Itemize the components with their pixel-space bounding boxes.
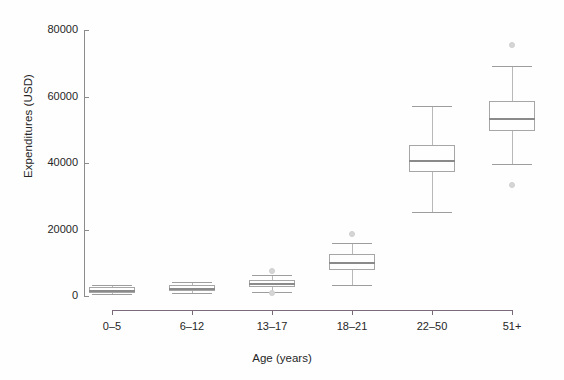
outlier-point	[269, 268, 275, 274]
median-line	[169, 288, 215, 290]
whisker-cap-lower	[332, 285, 372, 286]
box-plot-figure: Expenditures (USD) 020000400006000080000…	[0, 0, 564, 380]
x-axis-tick-label: 13–17	[237, 320, 307, 332]
whisker-lower	[432, 172, 433, 211]
y-axis-tick-label: 20000	[0, 223, 78, 235]
whisker-lower	[512, 131, 513, 164]
whisker-cap-upper	[492, 66, 532, 67]
x-axis-title: Age (years)	[0, 352, 564, 364]
x-axis-tick-label: 18–21	[317, 320, 387, 332]
box-iqr-rect	[489, 101, 535, 131]
y-axis-title: Expenditures (USD)	[22, 36, 34, 216]
whisker-cap-lower	[172, 293, 212, 294]
y-axis-tick-label: 60000	[0, 90, 78, 102]
outlier-point	[269, 290, 275, 296]
whisker-cap-lower	[92, 294, 132, 295]
x-axis-tick-label: 51+	[477, 320, 547, 332]
y-axis-tick	[84, 30, 89, 31]
outlier-point	[349, 231, 355, 237]
x-axis-tick-label: 6–12	[157, 320, 227, 332]
whisker-cap-upper	[332, 243, 372, 244]
y-axis-tick	[84, 296, 89, 297]
x-axis-tick	[352, 310, 353, 315]
x-axis-line	[112, 310, 512, 311]
outlier-point	[509, 42, 515, 48]
whisker-cap-upper	[412, 106, 452, 107]
y-axis-tick	[84, 163, 89, 164]
y-axis-tick-label: 40000	[0, 156, 78, 168]
whisker-upper	[512, 66, 513, 101]
y-axis-tick-label: 0	[0, 289, 78, 301]
x-axis-tick	[432, 310, 433, 315]
whisker-cap-lower	[492, 164, 532, 165]
median-line	[409, 160, 455, 162]
box-iqr-rect	[409, 145, 455, 172]
whisker-cap-upper	[252, 275, 292, 276]
median-line	[329, 262, 375, 264]
y-axis-tick	[84, 230, 89, 231]
whisker-cap-lower	[412, 212, 452, 213]
x-axis-tick	[272, 310, 273, 315]
whisker-upper	[352, 243, 353, 254]
y-axis-tick	[84, 97, 89, 98]
median-line	[249, 283, 295, 285]
x-axis-tick-label: 0–5	[77, 320, 147, 332]
median-line	[489, 118, 535, 120]
x-axis-tick	[112, 310, 113, 315]
outlier-point	[509, 182, 515, 188]
x-axis-tick	[192, 310, 193, 315]
y-axis-tick-label: 80000	[0, 23, 78, 35]
x-axis-tick	[512, 310, 513, 315]
x-axis-tick-label: 22–50	[397, 320, 467, 332]
whisker-upper	[432, 106, 433, 145]
whisker-lower	[352, 270, 353, 285]
whisker-cap-upper	[172, 282, 212, 283]
median-line	[89, 290, 135, 292]
whisker-cap-upper	[92, 285, 132, 286]
